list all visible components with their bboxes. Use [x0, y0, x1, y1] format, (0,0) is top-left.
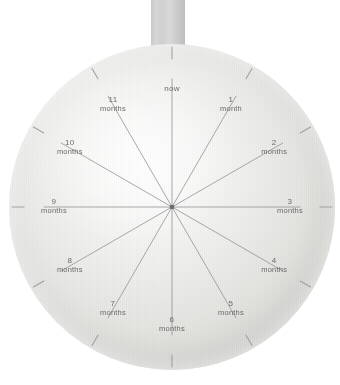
label-unit: months	[159, 325, 185, 333]
dial-label-1-months: 1month	[220, 96, 242, 113]
dial-label-5-months: 5months	[218, 301, 244, 318]
tick-10	[33, 127, 43, 133]
dial-label-10-months: 10months	[57, 139, 83, 156]
label-unit: months	[57, 266, 83, 274]
dial-label-7-months: 7months	[100, 301, 126, 318]
label-unit: months	[261, 266, 287, 274]
label-unit: months	[41, 207, 67, 215]
tick-8	[33, 281, 43, 287]
label-unit: months	[57, 148, 83, 156]
label-unit: months	[261, 148, 287, 156]
dial-label-6-months: 6months	[159, 316, 185, 333]
label-unit: months	[218, 309, 244, 317]
dial-label-9-months: 9months	[41, 198, 67, 215]
label-unit: months	[100, 309, 126, 317]
dial-label-3-months: 3months	[277, 198, 303, 215]
dial-center-hub	[170, 205, 175, 210]
tick-11	[92, 68, 98, 78]
tick-1	[246, 68, 252, 78]
label-text-now: now	[164, 85, 180, 94]
label-unit: month	[220, 105, 242, 113]
dial-label-4-months: 4months	[261, 257, 287, 274]
dial-label-11-months: 11months	[100, 96, 126, 113]
dial-label-8-months: 8months	[57, 257, 83, 274]
dial-label-now: now	[164, 85, 180, 94]
scan-edge-artifact-icon	[0, 0, 66, 22]
label-unit: months	[100, 105, 126, 113]
tick-7	[92, 335, 98, 345]
label-unit: months	[277, 207, 303, 215]
tick-5	[246, 335, 252, 345]
tick-2	[300, 127, 310, 133]
dial-artifact-scene: now1month2months3months4months5months6mo…	[0, 0, 340, 385]
dial-disc[interactable]: now1month2months3months4months5months6mo…	[9, 44, 335, 370]
dial-label-2-months: 2months	[261, 139, 287, 156]
tick-4	[300, 281, 310, 287]
